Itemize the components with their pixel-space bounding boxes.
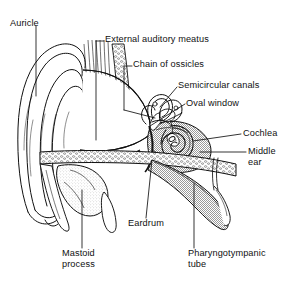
label-external-auditory-meatus: External auditory meatus bbox=[105, 34, 209, 45]
label-eardrum: Eardrum bbox=[128, 218, 164, 229]
label-middle-ear-line1: Middle bbox=[248, 146, 276, 157]
label-cochlea: Cochlea bbox=[243, 128, 277, 139]
label-mastoid-process-line2: process bbox=[62, 259, 95, 270]
label-pharyngotympanic-line1: Pharyngotympanic bbox=[188, 248, 266, 259]
label-mastoid-process-line1: Mastoid bbox=[62, 248, 95, 259]
label-chain-of-ossicles: Chain of ossicles bbox=[133, 59, 204, 70]
label-pharyngotympanic-line2: tube bbox=[188, 259, 206, 270]
ear-anatomy-diagram: Auricle External auditory meatus Chain o… bbox=[0, 0, 294, 286]
label-auricle: Auricle bbox=[10, 18, 39, 29]
label-oval-window: Oval window bbox=[186, 98, 239, 109]
label-middle-ear-line2: ear bbox=[248, 157, 262, 168]
label-semicircular-canals: Semicircular canals bbox=[178, 80, 259, 91]
